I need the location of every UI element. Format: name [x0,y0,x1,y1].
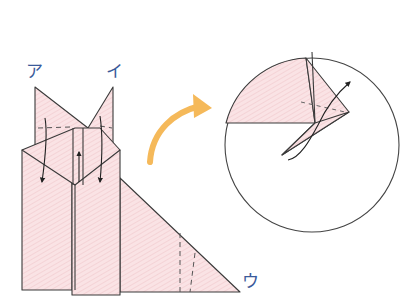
transition-arrow-icon [150,94,212,162]
inset-paper-panel [226,58,315,123]
main-figure [22,87,240,295]
label-point-i: イ [106,63,123,80]
label-point-a: ア [26,63,43,80]
label-point-u: ウ [242,273,259,290]
detail-inset [225,52,399,232]
diagram-canvas [0,0,408,305]
origami-diagram: ア イ ウ [0,0,408,305]
